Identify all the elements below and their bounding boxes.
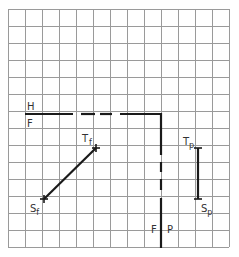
label-h: H xyxy=(27,101,35,112)
grid xyxy=(8,9,230,248)
point-tf-label: Tf xyxy=(81,133,92,147)
label-p: P xyxy=(167,224,173,235)
point-sp-label: Sp xyxy=(201,203,212,217)
projection-diagram: H F F P Tf Sf Tp Sp xyxy=(0,0,239,257)
label-f-fp: F xyxy=(151,224,157,235)
point-tp-label: Tp xyxy=(182,136,194,150)
point-sf-label: Sf xyxy=(30,203,39,217)
line-st-front xyxy=(40,144,100,203)
label-f-hf: F xyxy=(27,118,33,129)
